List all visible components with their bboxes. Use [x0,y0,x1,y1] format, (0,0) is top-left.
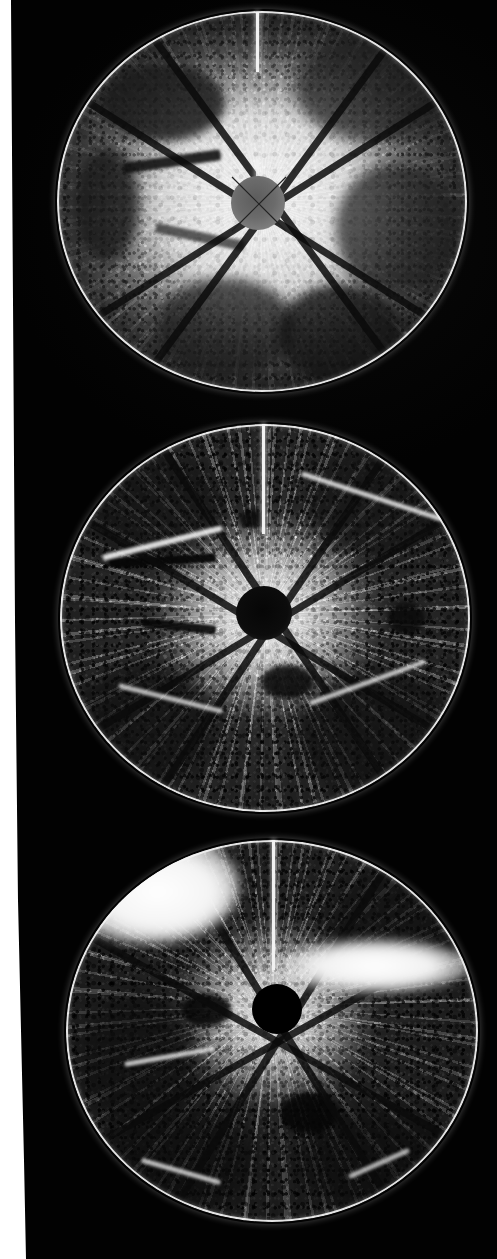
plate-3-impact-hole [252,984,302,1034]
plate-2-index-mark [262,424,265,534]
photograph-figure: Three circular impact-damaged target pla… [0,0,497,1259]
plate-2-impact-hole [236,586,292,640]
plate-1-impact-hole [231,176,285,230]
plate-1-index-mark [256,12,259,72]
plate-3-index-mark [272,840,275,970]
